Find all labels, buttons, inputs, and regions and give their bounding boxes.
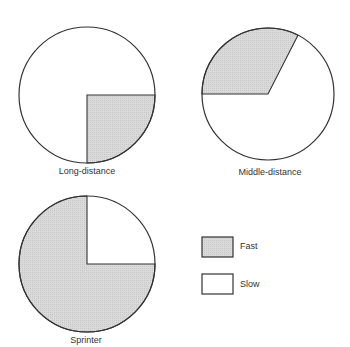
pie-fast-slice [87,95,155,163]
legend-swatch-slow [202,274,233,294]
pie-label-middle-distance: Middle-distance [238,167,301,177]
pie-sprinter [19,196,155,332]
legend-label-slow: Slow [240,279,260,289]
pie-label-sprinter: Sprinter [70,335,102,345]
pie-label-long-distance: Long-distance [59,166,116,176]
pie-long-distance [19,27,155,163]
pie-middle-distance [202,28,334,160]
legend-swatch-fast [202,237,233,257]
legend-label-fast: Fast [240,241,258,251]
